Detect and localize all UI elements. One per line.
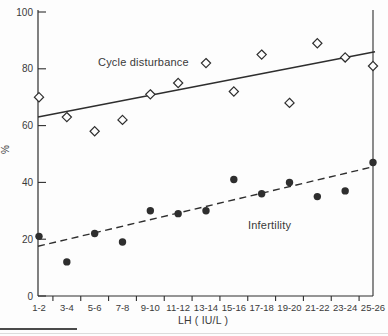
x-tick-label: 23-24	[333, 302, 357, 313]
circle-marker-infertility	[341, 187, 348, 194]
x-tick-label: 5-6	[88, 302, 102, 313]
y-tick-label: 100	[16, 7, 33, 18]
diamond-marker-cycle-disturbance	[341, 53, 350, 62]
y-tick-label: 0	[27, 291, 33, 302]
diamond-marker-cycle-disturbance	[368, 61, 377, 70]
bottom-caption-rule	[0, 328, 77, 330]
scatter-chart-figure: 0204060801001-23-45-67-89-1011-1213-1415…	[0, 0, 388, 336]
x-tick-label: 19-20	[277, 302, 301, 313]
bottom-scan-artifact-line	[0, 333, 388, 334]
circle-marker-infertility	[286, 179, 293, 186]
x-tick-label: 11-12	[166, 302, 190, 313]
circle-marker-infertility	[91, 230, 98, 237]
circle-marker-infertility	[35, 233, 42, 240]
x-tick-label: 7-8	[116, 302, 130, 313]
circle-marker-infertility	[230, 176, 237, 183]
trend-line-infertility	[38, 167, 373, 247]
x-tick-label: 9-10	[141, 302, 160, 313]
y-tick-label: 20	[22, 234, 34, 245]
circle-marker-infertility	[258, 190, 265, 197]
y-tick-label: 60	[22, 120, 34, 131]
series-label-cycle-disturbance: Cycle disturbance	[98, 56, 189, 68]
x-tick-label: 15-16	[222, 302, 246, 313]
diamond-marker-cycle-disturbance	[313, 39, 322, 48]
diamond-marker-cycle-disturbance	[174, 78, 183, 87]
circle-marker-infertility	[119, 238, 126, 245]
x-tick-label: 1-2	[32, 302, 46, 313]
diamond-marker-cycle-disturbance	[257, 50, 266, 59]
diamond-marker-cycle-disturbance	[146, 90, 155, 99]
x-tick-label: 3-4	[60, 302, 74, 313]
circle-marker-infertility	[202, 207, 209, 214]
circle-marker-infertility	[63, 258, 70, 265]
series-label-infertility: Infertility	[248, 219, 291, 231]
diamond-marker-cycle-disturbance	[34, 93, 43, 102]
chart-canvas: 0204060801001-23-45-67-89-1011-1213-1415…	[0, 0, 388, 336]
x-tick-label: 25-26	[361, 302, 385, 313]
y-axis-label: %	[0, 138, 11, 162]
diamond-marker-cycle-disturbance	[285, 98, 294, 107]
y-tick-label: 80	[22, 63, 34, 74]
diamond-marker-cycle-disturbance	[118, 115, 127, 124]
circle-marker-infertility	[314, 193, 321, 200]
x-tick-label: 13-14	[194, 302, 218, 313]
y-tick-label: 40	[22, 177, 34, 188]
diamond-marker-cycle-disturbance	[90, 127, 99, 136]
x-axis-label: LH ( IU/L )	[0, 314, 388, 326]
x-tick-label: 21-22	[305, 302, 329, 313]
diamond-marker-cycle-disturbance	[62, 112, 71, 121]
x-tick-label: 17-18	[250, 302, 274, 313]
circle-marker-infertility	[147, 207, 154, 214]
circle-marker-infertility	[369, 159, 376, 166]
circle-marker-infertility	[174, 210, 181, 217]
diamond-marker-cycle-disturbance	[201, 59, 210, 68]
diamond-marker-cycle-disturbance	[229, 87, 238, 96]
